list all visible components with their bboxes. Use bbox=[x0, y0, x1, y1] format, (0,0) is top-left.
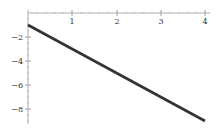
y-tick-label: −4 bbox=[11, 57, 23, 66]
y-tick-label: −8 bbox=[11, 105, 23, 114]
x-tick-label: 3 bbox=[158, 17, 163, 26]
y-tick-label: −6 bbox=[11, 81, 23, 90]
line-chart: 1 2 3 4 −2 −4 −6 −8 bbox=[0, 0, 222, 132]
x-tick-label: 2 bbox=[114, 17, 119, 26]
x-tick-label: 1 bbox=[69, 17, 74, 26]
x-tick-label: 4 bbox=[202, 17, 207, 26]
plot-area: 1 2 3 4 −2 −4 −6 −8 bbox=[0, 0, 222, 132]
data-line bbox=[28, 25, 205, 121]
y-tick-label: −2 bbox=[11, 33, 23, 42]
